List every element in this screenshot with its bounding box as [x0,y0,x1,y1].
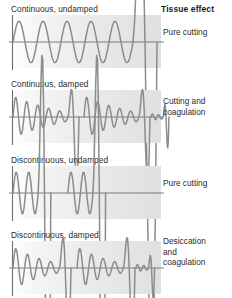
tissue-effect-discontinuous-damped: Desiccation and coagulation [163,236,206,268]
tissue-effect-column-header: Tissue effect [161,4,214,14]
waveform-figure: Tissue effect Continuous, undamped Pure … [0,0,232,298]
waveform-plot-discontinuous-undamped [7,163,165,223]
tissue-effect-discontinuous-undamped: Pure cutting [163,178,207,189]
waveform-plot-continuous-undamped [7,12,165,72]
waveform-plot-continuous-damped [7,87,165,147]
tissue-effect-continuous-damped: Cutting and coagulation [163,96,205,117]
tissue-effect-continuous-undamped: Pure cutting [163,27,207,38]
waveform-plot-discontinuous-damped [7,238,165,298]
